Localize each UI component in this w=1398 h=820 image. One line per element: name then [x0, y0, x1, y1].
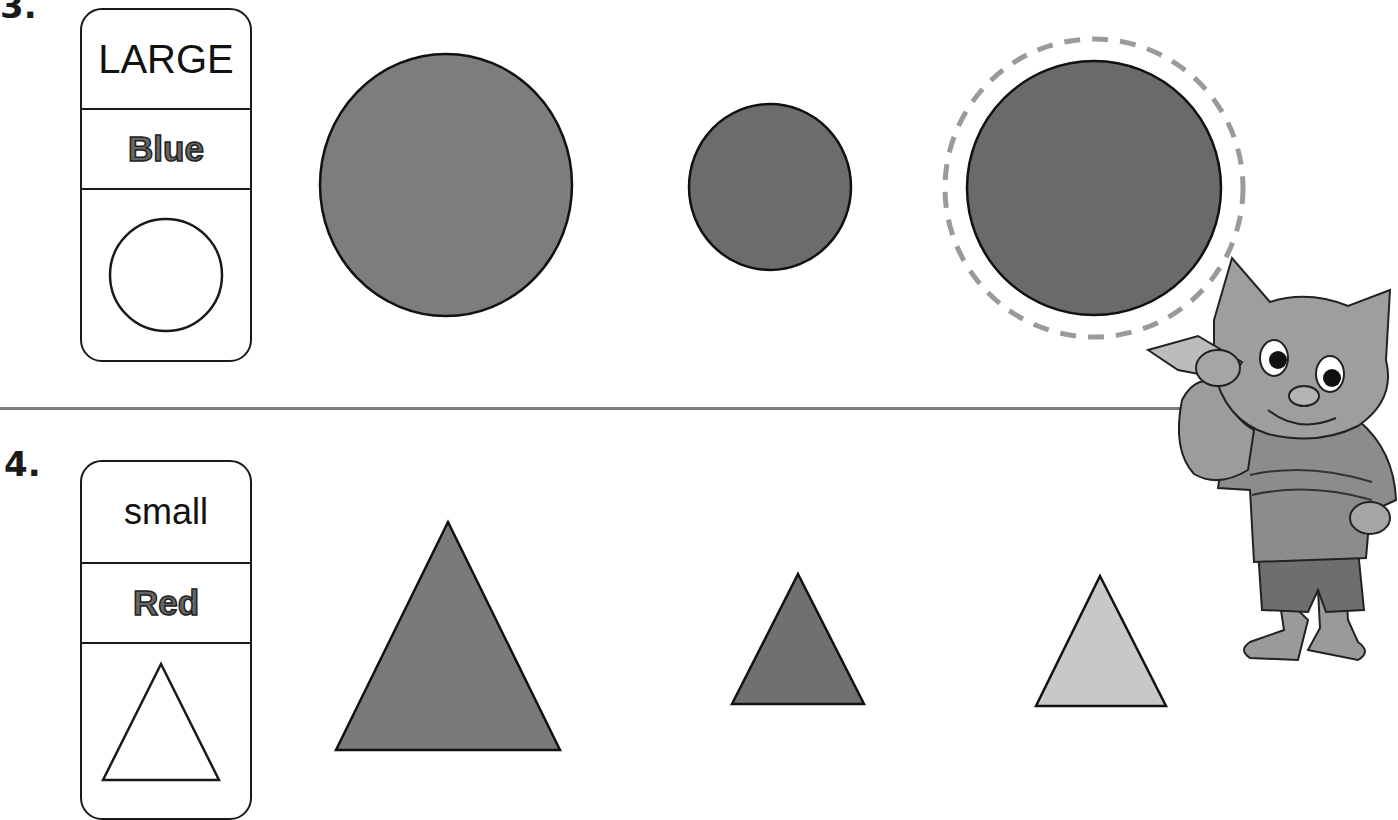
clue-size-cell: LARGE	[82, 10, 250, 110]
clue-card-4: small Red	[80, 460, 252, 820]
answer-small-red-triangle[interactable]	[730, 570, 870, 710]
clue-shape-cell	[82, 644, 250, 820]
clue-color-cell: Red	[82, 564, 250, 644]
clue-size-label: small	[124, 491, 208, 533]
problem-number-3: 3.	[0, 0, 37, 26]
answer-large-triangle[interactable]	[330, 518, 570, 758]
circle-outline-icon	[106, 215, 226, 335]
clue-color-label: Red	[133, 583, 199, 623]
clue-card-3: LARGE Blue	[80, 8, 252, 362]
section-divider	[0, 407, 1190, 410]
clue-size-cell: small	[82, 462, 250, 564]
clue-color-cell: Blue	[82, 110, 250, 190]
clue-color-label: Blue	[128, 129, 204, 169]
answer-small-light-triangle[interactable]	[1034, 572, 1174, 712]
clue-size-label: LARGE	[98, 37, 234, 82]
answer-large-circle[interactable]	[318, 52, 578, 322]
triangle-outline-icon	[101, 660, 231, 790]
clue-shape-cell	[82, 190, 250, 360]
mascot-cat-illustration	[1158, 250, 1398, 700]
problem-number-4: 4.	[4, 444, 41, 484]
answer-small-circle[interactable]	[686, 102, 856, 272]
